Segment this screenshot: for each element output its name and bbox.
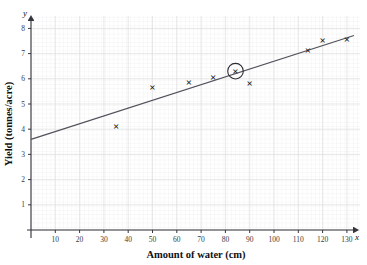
x-tick-label: 100 (268, 235, 280, 244)
x-tick-label: 10 (52, 235, 60, 244)
x-tick-label: 110 (293, 235, 304, 244)
y-tick-label: 1 (21, 200, 25, 209)
data-point-marker: × (247, 77, 253, 89)
x-tick-label: 50 (149, 235, 157, 244)
y-tick-label: 3 (21, 150, 25, 159)
x-tick-label: 30 (100, 235, 108, 244)
x-axis-letter: x (354, 232, 359, 242)
x-tick-label: 80 (222, 235, 230, 244)
x-tick-label: 130 (341, 235, 353, 244)
data-point-marker: × (319, 34, 325, 46)
y-tick-label: 6 (21, 74, 25, 83)
y-axis-title: Yield (tonnes/acre) (3, 81, 15, 166)
data-point-marker: × (305, 44, 311, 56)
x-tick-label: 120 (317, 235, 329, 244)
y-axis-letter: y (22, 8, 27, 18)
data-point-marker: × (149, 81, 155, 93)
x-axis-title: Amount of water (cm) (146, 249, 246, 261)
x-tick-label: 70 (197, 235, 205, 244)
x-tick-label: 90 (246, 235, 254, 244)
y-tick-label: 8 (21, 24, 25, 33)
x-tick-label: 40 (124, 235, 132, 244)
y-tick-label: 5 (21, 100, 25, 109)
chart-canvas: 1 2 3 4 5 6 7 8 10 20 30 40 50 60 70 80 … (0, 0, 367, 265)
data-point-marker: × (113, 120, 119, 132)
scatter-chart: 1 2 3 4 5 6 7 8 10 20 30 40 50 60 70 80 … (0, 0, 367, 265)
x-tick-label: 60 (173, 235, 181, 244)
y-tick-label: 2 (21, 175, 25, 184)
data-point-marker: × (344, 33, 350, 45)
data-point-marker-highlighted: × (232, 65, 238, 77)
data-point-marker: × (186, 76, 192, 88)
y-tick-label: 4 (21, 125, 25, 134)
data-point-marker: × (210, 71, 216, 83)
y-tick-label: 7 (21, 49, 25, 58)
x-tick-label: 20 (76, 235, 84, 244)
